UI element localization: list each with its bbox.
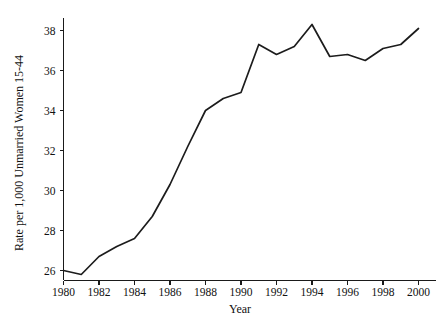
y-tick-label: 34	[44, 105, 56, 117]
y-tick-label: 36	[44, 65, 56, 77]
x-tick-label: 1986	[159, 286, 182, 298]
chart-container: Rate per 1,000 Unmarried Women 15-44 Yea…	[0, 0, 446, 327]
y-axis-tick-labels: 26283032343638	[44, 25, 56, 277]
x-tick-label: 1988	[194, 286, 217, 298]
y-tick-label: 32	[44, 145, 56, 157]
x-tick-label: 1994	[301, 286, 324, 298]
y-axis-ticks	[60, 31, 64, 271]
x-tick-label: 2000	[407, 286, 430, 298]
x-tick-label: 1992	[265, 286, 288, 298]
line-chart: Rate per 1,000 Unmarried Women 15-44 Yea…	[0, 0, 446, 327]
y-tick-label: 38	[44, 25, 56, 37]
y-tick-label: 30	[44, 185, 56, 197]
data-series-line	[64, 25, 419, 275]
x-tick-label: 1990	[230, 286, 253, 298]
x-tick-label: 1998	[372, 286, 395, 298]
x-axis-title: Year	[229, 302, 251, 316]
x-axis-ticks	[64, 281, 419, 285]
x-tick-label: 1980	[52, 286, 75, 298]
y-tick-label: 28	[44, 225, 56, 237]
x-tick-label: 1984	[123, 286, 146, 298]
x-tick-label: 1996	[336, 286, 359, 298]
y-tick-label: 26	[44, 265, 56, 277]
x-axis-tick-labels: 1980198219841986198819901992199419961998…	[52, 286, 430, 298]
x-tick-label: 1982	[88, 286, 111, 298]
y-axis-title: Rate per 1,000 Unmarried Women 15-44	[12, 55, 26, 251]
